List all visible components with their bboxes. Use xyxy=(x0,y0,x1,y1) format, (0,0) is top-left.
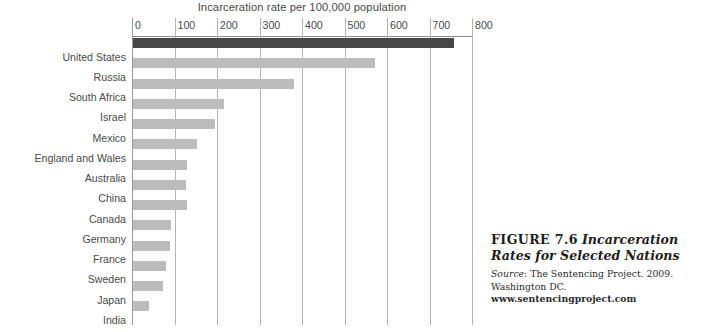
figure-7-6: Incarceration rate per 100,000 populatio… xyxy=(0,0,702,332)
category-label-south-africa: South Africa xyxy=(0,91,126,103)
gridline-600 xyxy=(387,18,388,325)
gridline-800 xyxy=(472,18,473,325)
caption-heading: FIGURE 7.6 Incarceration Rates for Selec… xyxy=(491,232,697,264)
figure-caption: FIGURE 7.6 Incarceration Rates for Selec… xyxy=(491,232,697,306)
category-label-france: France xyxy=(0,253,126,265)
bar-china xyxy=(133,180,186,190)
bar-germany xyxy=(133,220,171,230)
category-label-russia: Russia xyxy=(0,71,126,83)
x-tick-label-300: 300 xyxy=(260,19,281,31)
category-label-england-and-wales: England and Wales xyxy=(0,152,126,164)
category-label-israel: Israel xyxy=(0,111,126,123)
category-label-sweden: Sweden xyxy=(0,273,126,285)
bar-mexico xyxy=(133,119,215,129)
caption-source-word: Source xyxy=(491,268,524,279)
x-tick-label-400: 400 xyxy=(302,19,323,31)
bar-canada xyxy=(133,200,187,210)
bar-chart-plot-area: 0100200300400500600700800 xyxy=(132,18,472,325)
bar-south-africa xyxy=(133,79,294,89)
x-tick-label-800: 800 xyxy=(472,19,493,31)
category-label-china: China xyxy=(0,192,126,204)
bar-india xyxy=(133,301,149,311)
x-tick-label-0: 0 xyxy=(132,19,141,31)
x-tick-label-700: 700 xyxy=(430,19,451,31)
category-label-germany: Germany xyxy=(0,233,126,245)
x-tick-label-200: 200 xyxy=(217,19,238,31)
bar-england-and-wales xyxy=(133,139,197,149)
category-label-japan: Japan xyxy=(0,294,126,306)
x-tick-label-600: 600 xyxy=(387,19,408,31)
bar-sweden xyxy=(133,261,166,271)
caption-source: Source: The Sentencing Project. 2009. Wa… xyxy=(491,268,697,306)
caption-figure-number: FIGURE 7.6 xyxy=(491,232,578,247)
category-label-mexico: Mexico xyxy=(0,132,126,144)
category-label-united-states: United States xyxy=(0,51,126,63)
bar-russia xyxy=(133,58,375,68)
bar-japan xyxy=(133,281,163,291)
bar-united-states xyxy=(133,38,454,48)
caption-source-url[interactable]: www.sentencingproject.com xyxy=(491,293,636,304)
bar-israel xyxy=(133,99,224,109)
category-label-australia: Australia xyxy=(0,172,126,184)
category-label-canada: Canada xyxy=(0,213,126,225)
x-tick-label-500: 500 xyxy=(345,19,366,31)
chart-title: Incarceration rate per 100,000 populatio… xyxy=(132,1,472,13)
category-label-india: India xyxy=(0,314,126,326)
bar-australia xyxy=(133,160,187,170)
x-tick-label-100: 100 xyxy=(175,19,196,31)
gridline-700 xyxy=(430,18,431,325)
bar-france xyxy=(133,241,170,251)
